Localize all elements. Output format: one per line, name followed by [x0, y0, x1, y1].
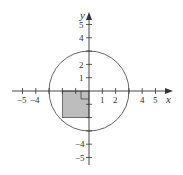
x-tick-label: 2 [113, 95, 118, 105]
y-axis-arrow-icon [86, 12, 92, 20]
y-tick-label: 5 [79, 20, 84, 30]
x-tick-label: 5 [153, 95, 158, 105]
x-axis-label: x [165, 93, 171, 105]
y-axis-label: y [79, 9, 85, 21]
y-tick-label: 2 [79, 60, 84, 70]
shaded-square [62, 91, 89, 118]
y-tick-label: −4 [75, 139, 85, 149]
coordinate-diagram: −5 −4 1 2 4 5 x 5 4 2 1 −4 −5 y [0, 0, 183, 175]
y-tick-label: −5 [75, 153, 85, 163]
x-tick-label: 4 [140, 95, 145, 105]
x-tick-label: 1 [100, 95, 105, 105]
y-tick-label: 1 [79, 73, 84, 83]
x-tick-label: −5 [17, 95, 27, 105]
x-tick-label: −4 [30, 95, 40, 105]
y-tick-label: 4 [79, 33, 84, 43]
